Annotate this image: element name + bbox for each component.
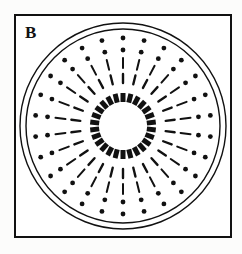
data-dot bbox=[50, 151, 55, 156]
gear-tooth bbox=[129, 94, 131, 103]
data-dot bbox=[85, 56, 90, 61]
data-dot bbox=[203, 155, 208, 160]
figure-panel: B bbox=[0, 0, 242, 254]
gear-tooth bbox=[115, 149, 117, 158]
gear-tooth bbox=[90, 122, 99, 123]
data-dot bbox=[100, 209, 105, 214]
radial-tick bbox=[56, 133, 66, 134]
data-dot bbox=[183, 167, 188, 172]
data-dot bbox=[179, 189, 184, 194]
data-dot bbox=[38, 92, 43, 97]
data-dot bbox=[139, 197, 144, 202]
gear-tooth bbox=[129, 149, 131, 158]
data-dot bbox=[156, 56, 161, 61]
gear-tooth bbox=[147, 129, 156, 130]
data-dot bbox=[193, 174, 198, 179]
radial-tick bbox=[56, 118, 66, 119]
data-dot bbox=[100, 38, 105, 43]
data-dot bbox=[62, 189, 67, 194]
radial-tick bbox=[181, 118, 191, 119]
data-dot bbox=[171, 180, 176, 185]
data-dot bbox=[80, 202, 85, 207]
data-dot bbox=[142, 209, 147, 214]
gear-tooth bbox=[145, 114, 153, 117]
gear-tooth bbox=[145, 135, 153, 138]
data-dot bbox=[58, 167, 63, 172]
data-dot bbox=[142, 38, 147, 43]
radial-tick bbox=[71, 120, 80, 121]
data-dot bbox=[70, 180, 75, 185]
panel-label: B bbox=[25, 23, 36, 42]
data-dot bbox=[121, 200, 126, 205]
gear-tooth bbox=[92, 135, 100, 138]
data-dot bbox=[38, 155, 43, 160]
data-dot bbox=[102, 50, 107, 55]
data-dot bbox=[196, 133, 201, 138]
data-dot bbox=[192, 151, 197, 156]
data-dot bbox=[121, 36, 126, 41]
data-dot bbox=[45, 133, 50, 138]
data-dot bbox=[50, 97, 55, 102]
radial-diagram-svg: B bbox=[0, 0, 242, 254]
radial-tick bbox=[181, 133, 191, 134]
data-dot bbox=[62, 58, 67, 63]
data-dot bbox=[48, 74, 53, 79]
data-dot bbox=[196, 114, 201, 119]
data-dot bbox=[58, 80, 63, 85]
data-dot bbox=[203, 92, 208, 97]
data-dot bbox=[45, 114, 50, 119]
radial-tick bbox=[71, 131, 80, 132]
data-dot bbox=[121, 212, 126, 217]
radial-tick bbox=[166, 120, 175, 121]
radial-tick bbox=[166, 131, 175, 132]
data-dot bbox=[162, 46, 167, 51]
data-dot bbox=[85, 191, 90, 196]
gear-tooth bbox=[90, 129, 99, 130]
data-dot bbox=[33, 134, 38, 139]
data-dot bbox=[193, 74, 198, 79]
data-dot bbox=[208, 113, 213, 118]
data-dot bbox=[179, 58, 184, 63]
data-dot bbox=[80, 46, 85, 51]
data-dot bbox=[156, 191, 161, 196]
gear-tooth bbox=[147, 122, 156, 123]
data-dot bbox=[70, 67, 75, 72]
data-dot bbox=[121, 48, 126, 53]
data-dot bbox=[208, 134, 213, 139]
data-dot bbox=[162, 202, 167, 207]
data-dot bbox=[171, 67, 176, 72]
gear-tooth bbox=[92, 114, 100, 117]
data-dot bbox=[33, 113, 38, 118]
gear-tooth bbox=[115, 94, 117, 103]
data-dot bbox=[183, 80, 188, 85]
data-dot bbox=[102, 197, 107, 202]
data-dot bbox=[139, 50, 144, 55]
data-dot bbox=[48, 174, 53, 179]
data-dot bbox=[192, 97, 197, 102]
